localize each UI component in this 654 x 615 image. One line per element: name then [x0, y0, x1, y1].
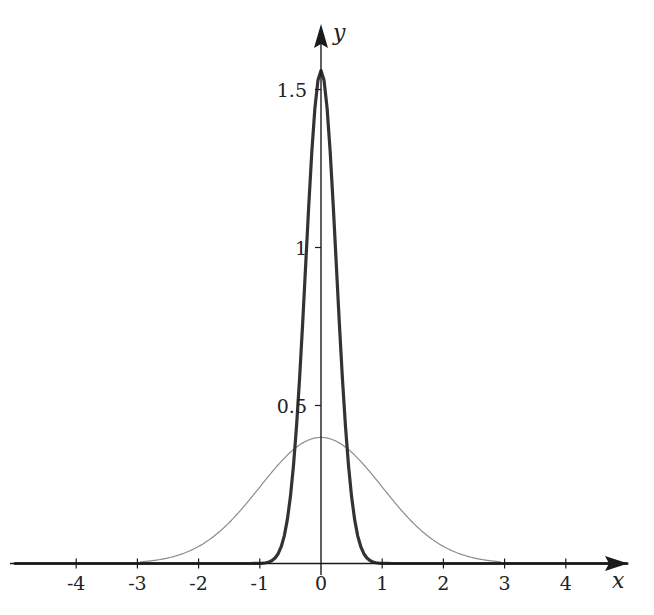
x-axis-label: x — [612, 568, 625, 593]
y-tick-label: 0.5 — [277, 395, 307, 417]
x-tick-label: 1 — [376, 572, 388, 594]
y-tick-label: 1 — [295, 237, 307, 259]
x-tick-label: -4 — [67, 572, 86, 594]
axes: x y — [10, 20, 628, 593]
x-tick-label: -3 — [128, 572, 147, 594]
x-tick-label: 3 — [499, 572, 511, 594]
x-tick-label: -2 — [189, 572, 208, 594]
x-tick-label: -1 — [251, 572, 270, 594]
x-tick-label: 2 — [437, 572, 449, 594]
density-chart: x y -4-3-2-101234 0.511.5 — [0, 0, 654, 615]
x-tick-label: 4 — [560, 572, 572, 594]
y-tick-label: 1.5 — [277, 79, 307, 101]
y-axis-label: y — [332, 20, 346, 45]
x-tick-label: 0 — [315, 572, 327, 594]
